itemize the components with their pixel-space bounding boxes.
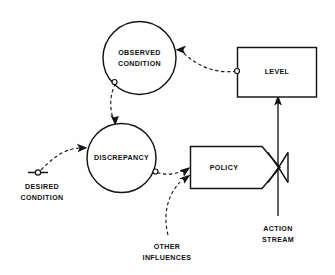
link-discrepancy-to-policy [153,167,191,177]
node-policy[interactable]: POLICY [191,147,281,189]
discrepancy-policy-dashed-path [157,170,184,174]
link-desired-condition-to-discrepancy [41,144,88,170]
action-stream-label-line2: STREAM [262,236,294,244]
link-level-to-observed-condition [176,46,240,74]
node-desired-condition[interactable]: DESIRED CONDITION [21,170,64,202]
level-observed-dashed-path [181,51,237,72]
observed-condition-label-line2: CONDITION [118,60,161,68]
other-influences-label-line2: INFLUENCES [143,254,192,262]
observed-condition-label-line1: OBSERVED [118,49,160,57]
observed-condition-source-connector-dot[interactable] [112,80,117,85]
action-stream-flow-arrow [274,95,282,216]
policy-label: POLICY [210,164,239,172]
desired-condition-label-line1: DESIRED [25,183,59,191]
link-other-influences-to-policy [166,175,191,236]
discrepancy-source-connector-dot[interactable] [153,169,158,174]
node-action-stream[interactable]: ACTION STREAM [262,225,294,244]
desired-discrepancy-dashed-path [41,148,80,170]
desired-condition-connector-dot[interactable] [35,170,40,175]
action-stream-label-line1: ACTION [263,225,292,233]
node-discrepancy[interactable]: DISCREPANCY [87,124,156,193]
level-source-connector-dot[interactable] [235,69,240,74]
desired-condition-label-line2: CONDITION [21,194,64,202]
other-influences-dashed-path [166,182,180,235]
other-influences-label-line1: OTHER [154,243,181,251]
level-label: LEVEL [265,68,290,76]
policy-other-influences-arrowhead [179,175,191,184]
diagram-svg: LEVEL POLICY OBSERVED CONDITION DISCREPA… [0,0,335,275]
diagram-canvas: LEVEL POLICY OBSERVED CONDITION DISCREPA… [0,0,335,275]
node-other-influences[interactable]: OTHER INFLUENCES [143,243,192,262]
observed-condition-arrowhead [176,46,187,55]
observed-discrepancy-dashed-path [111,84,116,120]
node-level[interactable]: LEVEL [238,48,317,98]
discrepancy-label: DISCREPANCY [94,154,149,162]
